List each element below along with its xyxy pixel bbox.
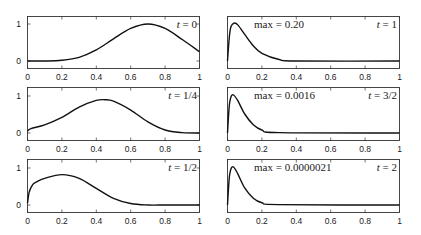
- x-tick-label: 0.2: [56, 144, 68, 154]
- x-tick-label: 0: [225, 72, 230, 82]
- x-tick-label: 0.4: [90, 216, 102, 226]
- x-tick-label: 1: [397, 144, 402, 154]
- x-tick-label: 0.2: [256, 144, 268, 154]
- x-tick-label: 0.8: [159, 72, 171, 82]
- x-tick-label: 0.8: [159, 144, 171, 154]
- x-tick-label: 1: [197, 72, 202, 82]
- panel-right-t1: 00.20.40.60.81t = 1max = 0.20: [225, 17, 402, 83]
- time-label: t = 3/2: [368, 89, 397, 101]
- data-curve: [28, 100, 200, 133]
- x-tick-label: 1: [397, 216, 402, 226]
- time-value: = 1/4: [171, 89, 197, 101]
- data-curve: [28, 24, 200, 61]
- x-tick-label: 0.6: [325, 144, 337, 154]
- x-tick-label: 0.6: [325, 72, 337, 82]
- time-label: t = 1/2: [168, 161, 197, 173]
- x-tick-label: 0.8: [359, 72, 371, 82]
- x-tick-label: 0.4: [290, 72, 302, 82]
- x-tick-label: 0.6: [325, 216, 337, 226]
- x-tick-label: 0.2: [56, 216, 68, 226]
- max-label: max = 0.0000021: [254, 161, 331, 173]
- x-tick-label: 0.2: [256, 216, 268, 226]
- time-label: t = 1/4: [168, 89, 197, 101]
- x-tick-label: 0.4: [290, 216, 302, 226]
- data-curve: [28, 175, 200, 205]
- panel-left-t1-4: 00.20.40.60.8101t = 1/4: [16, 88, 202, 155]
- y-tick-label: 0: [16, 200, 21, 210]
- time-label: t = 0: [177, 18, 198, 30]
- panel-left-t0: 00.20.40.60.8101t = 0: [16, 17, 202, 83]
- figure: 00.20.40.60.8101t = 0 00.20.40.60.8101t …: [0, 0, 421, 235]
- x-tick-label: 0: [225, 144, 230, 154]
- time-value: = 3/2: [371, 89, 397, 101]
- panel-left-t1-2: 00.20.40.60.8101t = 1/2: [16, 160, 202, 227]
- time-value: = 0: [180, 18, 198, 30]
- x-tick-label: 0: [225, 216, 230, 226]
- x-tick-label: 1: [197, 144, 202, 154]
- x-tick-label: 0: [25, 72, 30, 82]
- x-tick-label: 0.6: [125, 144, 137, 154]
- time-value: = 1: [380, 18, 397, 30]
- x-tick-label: 0.6: [125, 216, 137, 226]
- x-tick-label: 1: [397, 72, 402, 82]
- y-tick-label: 1: [16, 19, 21, 29]
- x-tick-label: 0.2: [256, 72, 268, 82]
- x-tick-label: 0: [25, 216, 30, 226]
- y-tick-label: 1: [16, 163, 21, 173]
- time-value: = 2: [380, 161, 397, 173]
- max-label: max = 0.0016: [254, 89, 315, 101]
- y-tick-label: 0: [16, 56, 21, 66]
- x-tick-label: 0.8: [159, 216, 171, 226]
- x-tick-label: 0.6: [125, 72, 137, 82]
- x-tick-label: 0.4: [290, 144, 302, 154]
- x-tick-label: 0.4: [90, 72, 102, 82]
- x-tick-label: 0.8: [359, 144, 371, 154]
- time-value: = 1/2: [171, 161, 197, 173]
- y-tick-label: 0: [16, 128, 21, 138]
- y-tick-label: 1: [16, 91, 21, 101]
- x-tick-label: 0.4: [90, 144, 102, 154]
- time-label: t = 2: [377, 161, 397, 173]
- x-tick-label: 0.8: [359, 216, 371, 226]
- x-tick-label: 0.2: [56, 72, 68, 82]
- max-label: max = 0.20: [254, 18, 304, 30]
- x-tick-label: 0: [25, 144, 30, 154]
- x-tick-label: 1: [197, 216, 202, 226]
- panel-right-t2: 00.20.40.60.81t = 2max = 0.0000021: [225, 160, 402, 227]
- time-label: t = 1: [377, 18, 397, 30]
- panel-right-t3-2: 00.20.40.60.81t = 3/2max = 0.0016: [225, 88, 402, 155]
